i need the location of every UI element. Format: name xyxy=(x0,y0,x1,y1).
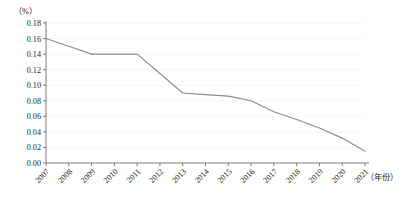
data-series-group xyxy=(46,39,365,152)
x-tick-label: 2013 xyxy=(170,167,188,185)
x-tick-label: 2007 xyxy=(33,167,51,185)
x-tick-label: 2008 xyxy=(56,167,74,185)
x-tick-label: 2015 xyxy=(216,167,234,185)
y-tick-label: 0.06 xyxy=(27,112,41,121)
line-chart: 0.000.020.040.060.080.100.120.140.160.18… xyxy=(0,0,406,212)
y-tick-label: 0.00 xyxy=(27,159,41,168)
x-tick-label: 2011 xyxy=(125,167,143,185)
x-tick-label: 2016 xyxy=(239,167,257,185)
y-axis-unit-label: （%） xyxy=(14,7,37,16)
y-tick-label: 0.08 xyxy=(27,97,41,106)
y-tick-label: 0.02 xyxy=(27,143,41,152)
x-axis-unit-label: （年份） xyxy=(366,172,398,182)
gridlines xyxy=(46,23,365,147)
y-tick-label: 0.18 xyxy=(27,19,41,28)
x-axis-ticks: 2007200820092010201120122013201420152016… xyxy=(33,163,370,185)
chart-figure: 0.000.020.040.060.080.100.120.140.160.18… xyxy=(0,0,406,212)
x-tick-label: 2009 xyxy=(79,167,97,185)
y-tick-label: 0.16 xyxy=(27,35,41,44)
series-line xyxy=(46,39,365,152)
x-tick-label: 2010 xyxy=(102,167,120,185)
y-axis-ticks: 0.000.020.040.060.080.100.120.140.160.18 xyxy=(27,19,46,168)
y-tick-label: 0.14 xyxy=(27,50,41,59)
x-tick-label: 2019 xyxy=(307,167,325,185)
x-tick-label: 2018 xyxy=(284,167,302,185)
x-tick-label: 2020 xyxy=(330,167,348,185)
x-tick-label: 2014 xyxy=(193,167,211,185)
x-tick-label: 2017 xyxy=(261,167,279,185)
x-tick-label: 2012 xyxy=(147,167,165,185)
y-tick-label: 0.10 xyxy=(27,81,41,90)
y-tick-label: 0.12 xyxy=(27,66,41,75)
y-tick-label: 0.04 xyxy=(27,128,41,137)
